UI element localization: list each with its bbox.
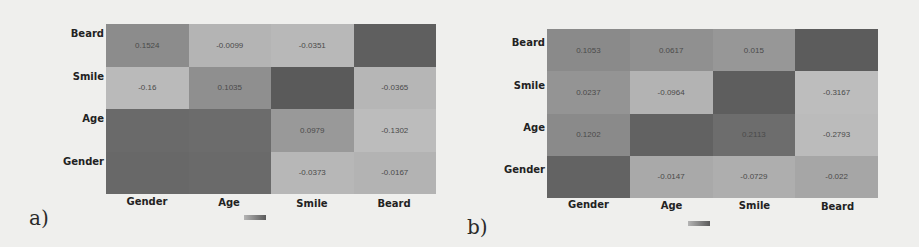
heatmap-cell: -0.0147 xyxy=(630,156,713,198)
heatmap-cell: -0.0964 xyxy=(630,71,713,113)
y-label-smile: Smile xyxy=(485,80,545,91)
y-label-gender: Gender xyxy=(485,164,545,175)
heatmap-cell xyxy=(630,114,713,156)
heatmap-cell: -0.022 xyxy=(795,156,878,198)
x-label-beard: Beard xyxy=(796,201,879,212)
heatmap-cell: -0.2793 xyxy=(795,114,878,156)
heatmap-cell: 0.1053 xyxy=(547,29,630,71)
heatmap-cell: -0.0729 xyxy=(713,156,796,198)
y-label-beard: Beard xyxy=(485,37,545,48)
colorbar-b xyxy=(688,221,710,226)
heatmap-cell xyxy=(547,156,630,198)
heatmap-cell: 0.015 xyxy=(713,29,796,71)
heatmap-cell: 0.1202 xyxy=(547,114,630,156)
y-label-age: Age xyxy=(485,122,545,133)
x-label-smile: Smile xyxy=(713,200,796,211)
heatmap-cell: 0.0237 xyxy=(547,71,630,113)
x-label-gender: Gender xyxy=(547,199,630,210)
heatmap-cell xyxy=(713,71,796,113)
heatmap-panel-b: Beard Smile Age Gender 0.1053 0.0617 0.0… xyxy=(0,0,919,247)
heatmap-cell: 0.0617 xyxy=(630,29,713,71)
x-label-age: Age xyxy=(630,200,713,211)
panel-label-b: b) xyxy=(467,215,488,239)
heatmap-cell: -0.3167 xyxy=(795,71,878,113)
heatmap-cell: 0.2113 xyxy=(713,114,796,156)
heatmap-grid-b: 0.1053 0.0617 0.015 0.0237 -0.0964 -0.31… xyxy=(547,29,878,198)
heatmap-cell xyxy=(795,29,878,71)
